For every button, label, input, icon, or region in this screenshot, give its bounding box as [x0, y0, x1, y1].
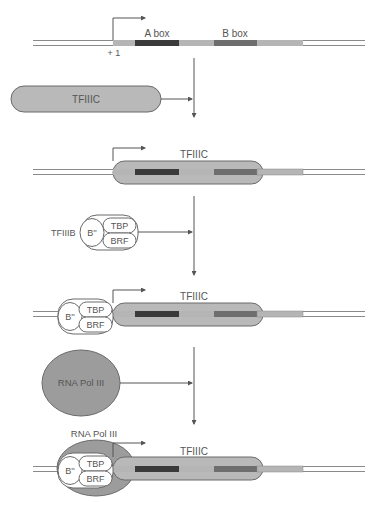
gene-segment [257, 466, 303, 472]
bdp-label: B'' [87, 228, 97, 238]
tfiiic-label: TFIIIC [180, 149, 208, 160]
b-box-label: B box [222, 28, 248, 39]
a-box-label: A box [144, 28, 169, 39]
a-box [135, 311, 179, 317]
a-box [135, 466, 179, 472]
tfiiic-label: TFIIIC [180, 291, 208, 302]
b-box [214, 169, 257, 175]
pol-iii-assembly-diagram: A box B box + 1 TFIIIC TFIIIC TFIIIB B''… [0, 0, 385, 508]
tbp-label: TBP [87, 459, 105, 469]
tfiiib-label: TFIIIB [51, 228, 76, 238]
tbp-label: TBP [87, 305, 105, 315]
step7-full-complex: B'' TBP BRF RNA Pol III TFIIIC [33, 428, 365, 496]
transcription-start-arrow-icon [113, 290, 145, 303]
transcription-start-arrow-icon [113, 18, 145, 40]
gene-segment [179, 466, 214, 472]
b-box [214, 40, 257, 46]
bdp-label: B'' [65, 312, 75, 322]
start-site-label: + 1 [108, 48, 121, 58]
step4-tfiiib: TFIIIB B'' TBP BRF [51, 215, 192, 250]
gene-segment [257, 169, 303, 175]
brf-label: BRF [87, 474, 106, 484]
tfiiic-label: TFIIIC [72, 94, 100, 105]
b-box [214, 311, 257, 317]
tbp-label: TBP [111, 221, 129, 231]
rna-pol-iii-label: RNA Pol III [58, 377, 104, 388]
gene-segment [257, 40, 303, 46]
gene-segment [179, 40, 214, 46]
gene-segment [179, 169, 214, 175]
step1-gene: A box B box + 1 [33, 18, 365, 58]
rna-pol-iii-label: RNA Pol III [71, 428, 117, 439]
gene-segment [113, 466, 135, 472]
gene-segment [113, 311, 135, 317]
gene-segment [113, 169, 135, 175]
a-box [135, 40, 179, 46]
a-box [135, 169, 179, 175]
transcription-start-arrow-icon [113, 148, 145, 161]
step5-tfiiib-tfiiic-bound: B'' TBP BRF TFIIIC [33, 290, 365, 334]
step2-tfiiic: TFIIIC [11, 86, 192, 112]
gene-segment [257, 311, 303, 317]
tfiiic-label: TFIIIC [180, 446, 208, 457]
brf-label: BRF [87, 320, 106, 330]
step3-tfiiic-bound: TFIIIC [33, 148, 365, 184]
b-box [214, 466, 257, 472]
brf-label: BRF [111, 236, 130, 246]
gene-segment [179, 311, 214, 317]
gene-segment [113, 40, 135, 46]
step6-rna-pol-iii: RNA Pol III [42, 350, 192, 416]
bdp-label: B'' [65, 466, 75, 476]
